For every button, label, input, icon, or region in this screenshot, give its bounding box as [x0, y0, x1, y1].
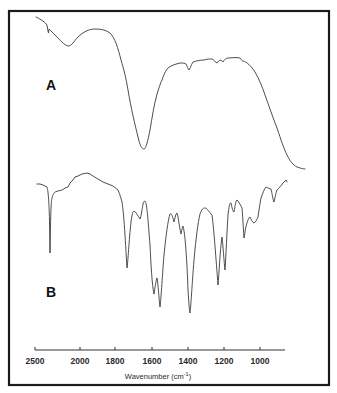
panel-label-a: A — [46, 77, 56, 93]
x-tick-label: 1000 — [251, 356, 270, 366]
x-tick-label: 1800 — [106, 356, 125, 366]
x-tick-label: 2000 — [71, 356, 90, 366]
x-axis-label: Wavenumber (cm-1) — [125, 371, 192, 381]
x-tick-label: 2500 — [26, 356, 45, 366]
panel-label-b: B — [46, 284, 56, 300]
spectrum-b-trace — [37, 173, 287, 313]
x-tick-label: 1200 — [215, 356, 234, 366]
spectrum-a-trace — [36, 17, 305, 169]
x-tick-label: 1400 — [179, 356, 198, 366]
ir-spectra-chart: A B 2500200018001600140012001000 Wavenum… — [0, 0, 337, 393]
x-tick-label: 1600 — [143, 356, 162, 366]
